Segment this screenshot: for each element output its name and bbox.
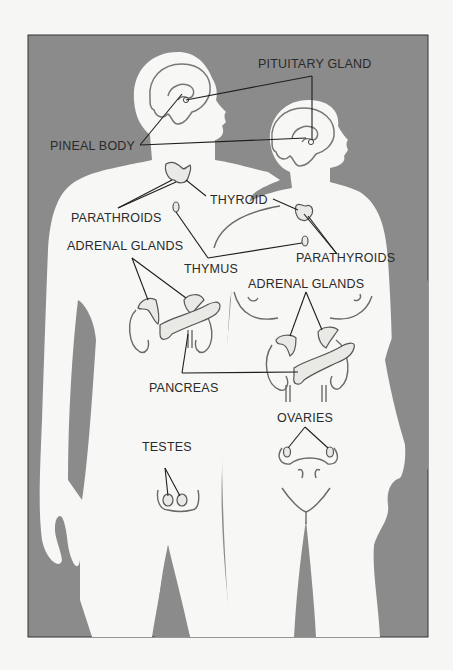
label-thyroid: THYROID — [210, 193, 268, 207]
label-pituitary-gland: PITUITARY GLAND — [258, 57, 371, 71]
label-pancreas: PANCREAS — [149, 381, 218, 395]
label-adrenal-glands-female: ADRENAL GLANDS — [248, 277, 364, 291]
label-thymus: THYMUS — [184, 262, 238, 276]
endocrine-diagram: PITUITARY GLAND PINEAL BODY THYROID PARA… — [0, 0, 453, 670]
label-parathyroids-female: PARATHYROIDS — [296, 251, 395, 265]
label-ovaries: OVARIES — [277, 411, 333, 425]
label-parathroids-male: PARATHROIDS — [71, 211, 162, 225]
label-pineal-body: PINEAL BODY — [50, 139, 136, 153]
label-testes: TESTES — [142, 440, 192, 454]
label-adrenal-glands-male: ADRENAL GLANDS — [67, 239, 183, 253]
